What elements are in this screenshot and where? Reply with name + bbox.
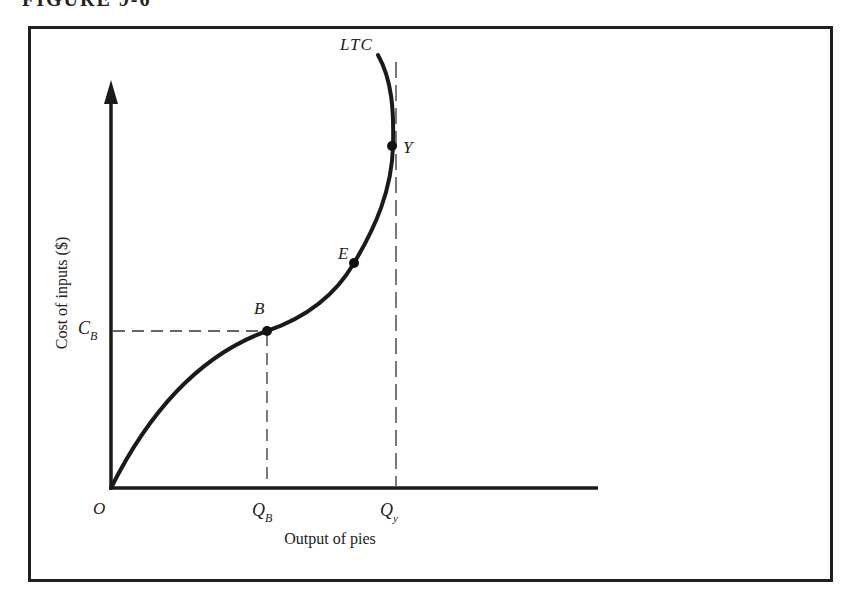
point-b-label: B <box>254 299 265 318</box>
qy-tick-label: Qy <box>380 500 398 524</box>
origin-label: O <box>93 499 105 518</box>
ltc-chart: B E Y LTC O QB Qy CB Output of pies Cost… <box>0 0 849 603</box>
ltc-curve-label: LTC <box>339 35 373 54</box>
point-y-label: Y <box>403 138 414 157</box>
y-axis-title: Cost of inputs ($) <box>53 237 71 349</box>
cb-tick-label: CB <box>78 318 98 343</box>
ltc-curve <box>111 55 393 488</box>
y-axis-arrowhead-icon <box>104 80 118 104</box>
point-b-marker <box>262 326 272 336</box>
point-e-marker <box>349 258 359 268</box>
point-y-marker <box>387 141 397 151</box>
point-e-label: E <box>337 244 349 263</box>
x-axis-title: Output of pies <box>284 530 376 548</box>
qb-tick-label: QB <box>252 500 273 525</box>
